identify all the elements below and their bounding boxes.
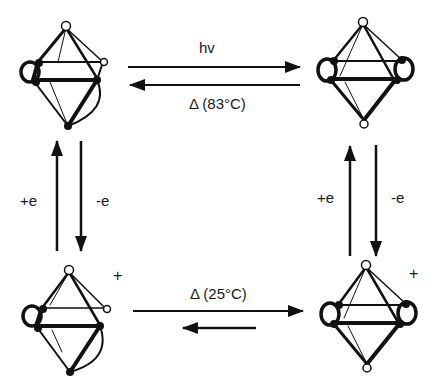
molecule-bottom-right <box>321 261 416 373</box>
molecule-top-left <box>21 22 108 131</box>
label-top-reverse-heat-83c: Δ (83°C) <box>189 96 246 111</box>
reaction-scheme-canvas <box>0 0 440 389</box>
label-left-up-plus-e: +e <box>20 193 37 208</box>
charge-bottom-left: + <box>113 268 122 284</box>
molecule-top-right <box>318 18 413 129</box>
label-right-down-minus-e: -e <box>391 190 404 205</box>
molecule-bottom-left <box>23 266 111 377</box>
label-bottom-forward-heat-25c: Δ (25°C) <box>190 286 247 301</box>
charge-bottom-right: + <box>409 266 418 282</box>
label-right-up-plus-e: +e <box>317 190 334 205</box>
label-top-forward-hv: hv <box>199 40 215 55</box>
label-left-down-minus-e: -e <box>96 193 109 208</box>
